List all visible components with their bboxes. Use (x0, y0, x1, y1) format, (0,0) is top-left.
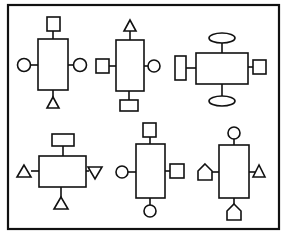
node-3-left-rect-icon (175, 56, 186, 80)
node-3-body (196, 53, 248, 84)
node-2-left-square-icon (96, 59, 109, 73)
node-5-body (136, 144, 165, 198)
node-3 (175, 33, 266, 106)
node-5-right-square-icon (170, 164, 184, 178)
node-2-bottom-rect-icon (120, 100, 138, 111)
node-5 (116, 123, 184, 217)
node-6-body (219, 145, 249, 198)
node-6-left-pentagon-icon (198, 164, 212, 180)
node-1 (18, 17, 87, 108)
node-1-right-circle-icon (74, 59, 87, 72)
node-4-body (39, 156, 86, 187)
node-3-top-ellipse-icon (209, 33, 235, 43)
node-2-right-circle-icon (148, 60, 160, 72)
node-6-bottom-pentagon-icon (227, 204, 241, 220)
node-1-top-square-icon (47, 17, 60, 31)
node-5-top-square-icon (143, 123, 156, 137)
node-1-left-circle-icon (18, 59, 31, 72)
node-6 (198, 127, 265, 220)
node-5-bottom-circle-icon (144, 205, 156, 217)
node-1-body (38, 39, 68, 90)
node-3-bottom-ellipse-icon (209, 96, 235, 106)
node-6-top-circle-icon (228, 127, 240, 139)
node-2 (96, 20, 160, 111)
node-6-right-triangle-icon (253, 165, 265, 177)
node-2-body (116, 40, 144, 91)
node-4-top-rect-icon (52, 134, 74, 146)
node-1-bottom-triangle-icon (47, 97, 59, 108)
node-5-left-circle-icon (116, 166, 128, 178)
diagram-canvas (0, 0, 284, 235)
node-2-top-triangle-icon (124, 20, 136, 31)
node-4 (17, 134, 102, 209)
node-4-bottom-triangle-icon (54, 197, 68, 209)
node-4-left-triangle-icon (17, 165, 31, 177)
node-4-right-triangle-down-icon (88, 167, 102, 179)
node-3-right-square-icon (253, 60, 266, 74)
